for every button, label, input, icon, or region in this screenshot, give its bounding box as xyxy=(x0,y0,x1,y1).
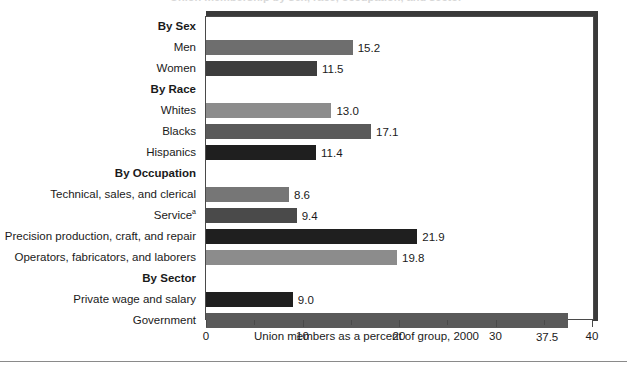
bar xyxy=(206,40,353,55)
group-header-label: By Sector xyxy=(142,271,196,285)
bar-value-label: 8.6 xyxy=(294,188,310,202)
bar-row-label: Blacks xyxy=(162,124,196,138)
bar-track: 17.1 xyxy=(206,121,592,142)
bar-row-label: Women xyxy=(157,61,196,75)
bar-value-label: 13.0 xyxy=(336,104,358,118)
group-header-label: By Sex xyxy=(158,19,196,33)
bar xyxy=(206,292,293,307)
x-axis-title: Union members as a percent of group, 200… xyxy=(0,330,627,342)
group-header-row: By Sector xyxy=(0,268,627,289)
x-axis-minor-tick xyxy=(544,320,545,325)
bottom-divider xyxy=(0,361,627,362)
bar-row-label: Whites xyxy=(161,103,196,117)
bar-value-label: 21.9 xyxy=(422,230,444,244)
bar xyxy=(206,145,316,160)
bar-track: 9.4 xyxy=(206,205,592,226)
bar xyxy=(206,61,317,76)
bar-row: Women11.5 xyxy=(0,58,627,79)
x-axis-minor-tick xyxy=(351,320,352,325)
bar-value-label: 9.0 xyxy=(298,293,314,307)
bar-row: Servicea9.4 xyxy=(0,205,627,226)
group-header-row: By Sex xyxy=(0,16,627,37)
bar-value-label: 19.8 xyxy=(402,251,424,265)
bar-track: 21.9 xyxy=(206,226,592,247)
bar-track: 8.6 xyxy=(206,184,592,205)
group-header-row: By Race xyxy=(0,79,627,100)
bar-value-label: 9.4 xyxy=(302,209,318,223)
bar-track: 11.5 xyxy=(206,58,592,79)
group-header-row: By Occupation xyxy=(0,163,627,184)
bar xyxy=(206,124,371,139)
bar-chart-figure: By SexMen15.2Women11.5By RaceWhites13.0B… xyxy=(0,0,627,371)
bar-row-label: Private wage and salary xyxy=(73,292,196,306)
x-axis-major-tick xyxy=(592,320,593,327)
x-axis-major-tick xyxy=(206,320,207,327)
bar-track: 11.4 xyxy=(206,142,592,163)
footnote-superscript: a xyxy=(192,208,196,215)
group-header-label: By Race xyxy=(151,82,196,96)
bar-track: 19.8 xyxy=(206,247,592,268)
bar-row: Private wage and salary9.0 xyxy=(0,289,627,310)
bar-row: Men15.2 xyxy=(0,37,627,58)
bar-row-label: Servicea xyxy=(154,208,196,222)
bar-row: Hispanics11.4 xyxy=(0,142,627,163)
x-axis-major-tick xyxy=(303,320,304,327)
bar-row: Technical, sales, and clerical8.6 xyxy=(0,184,627,205)
bar-track: 13.0 xyxy=(206,100,592,121)
bar-row-label: Men xyxy=(174,40,196,54)
bar-row: Operators, fabricators, and laborers19.8 xyxy=(0,247,627,268)
bar-row-label: Technical, sales, and clerical xyxy=(50,187,196,201)
bar xyxy=(206,250,397,265)
bar-track: 15.2 xyxy=(206,37,592,58)
bar-row: Precision production, craft, and repair2… xyxy=(0,226,627,247)
bar-row-label: Operators, fabricators, and laborers xyxy=(14,250,196,264)
bar-row: Whites13.0 xyxy=(0,100,627,121)
bar xyxy=(206,229,417,244)
x-axis-major-tick xyxy=(399,320,400,327)
x-axis-minor-tick xyxy=(447,320,448,325)
bar-value-label: 15.2 xyxy=(358,41,380,55)
bar xyxy=(206,103,331,118)
bar-row-label: Hispanics xyxy=(146,145,196,159)
x-axis-minor-tick xyxy=(254,320,255,325)
bar-value-label: 11.4 xyxy=(321,146,343,160)
x-axis-major-tick xyxy=(496,320,497,327)
bar xyxy=(206,208,297,223)
x-axis-title-text: Union members as a percent of group, 200… xyxy=(148,330,479,342)
bar-value-label: 11.5 xyxy=(322,62,344,76)
bar-value-label: 17.1 xyxy=(376,125,398,139)
chart-rows: By SexMen15.2Women11.5By RaceWhites13.0B… xyxy=(0,16,627,331)
bar-row-label: Government xyxy=(133,313,196,327)
bar-row-label: Precision production, craft, and repair xyxy=(5,229,196,243)
bar-row: Blacks17.1 xyxy=(0,121,627,142)
bar-track: 9.0 xyxy=(206,289,592,310)
group-header-label: By Occupation xyxy=(115,166,196,180)
bar xyxy=(206,187,289,202)
